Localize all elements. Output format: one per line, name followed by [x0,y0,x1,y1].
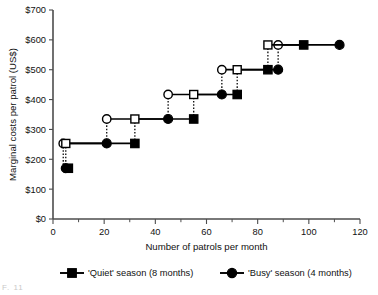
y-tick-label: $100 [25,185,46,195]
x-tick-label: 40 [150,227,160,237]
step-start-marker [62,139,70,147]
y-tick-label: $500 [25,65,46,75]
y-axis: $0$100$200$300$400$500$600$700 [25,5,53,224]
step-start-marker [218,66,226,74]
legend-marker-square [68,269,77,278]
legend-item-quiet[interactable]: 'Quiet' season (8 months) [60,268,193,278]
y-tick-label: $300 [25,125,46,135]
y-axis-title: Marginal costs per patrol (US$) [7,48,18,181]
step-start-marker [190,90,198,98]
x-axis-title: Number of patrols per month [145,241,267,252]
x-tick-label: 20 [99,227,109,237]
x-tick-label: 60 [201,227,211,237]
y-tick-label: $0 [36,214,46,224]
step-start-marker [233,66,241,74]
chart-legend: 'Quiet' season (8 months)'Busy' season (… [60,268,352,278]
y-tick-label: $200 [25,155,46,165]
plot-area [59,40,344,172]
x-tick-label: 100 [301,227,317,237]
y-tick-label: $700 [25,5,46,15]
step-start-marker [131,115,139,123]
x-tick-label: 80 [252,227,262,237]
step-end-marker [233,90,241,98]
legend-marker-circle [227,268,236,277]
step-end-marker [190,115,198,123]
step-end-marker [64,164,72,172]
step-start-marker [103,115,111,123]
y-tick-label: $600 [25,35,46,45]
marginal-costs-step-chart: $0$100$200$300$400$500$600$700 020406080… [0,0,378,295]
step-end-marker [264,66,272,74]
figure-marginal-costs-chart: $0$100$200$300$400$500$600$700 020406080… [0,0,378,295]
legend-label: 'Busy' season (4 months) [248,268,352,278]
step-end-marker [131,139,139,147]
step-start-marker [164,90,172,98]
step-start-marker [264,41,272,49]
legend-item-busy[interactable]: 'Busy' season (4 months) [220,268,352,278]
x-tick-label: 0 [50,227,55,237]
x-axis: 020406080100120 [50,219,367,237]
series-quiet-season [62,41,308,173]
axis-titles: Number of patrols per monthMarginal cost… [7,48,268,252]
figure-caption-fragment: F. 11 [2,283,24,292]
y-tick-label: $400 [25,95,46,105]
legend-label: 'Quiet' season (8 months) [88,268,193,278]
step-end-marker [300,41,308,49]
step-end-marker [274,65,283,74]
step-end-marker [335,40,344,49]
series-busy-season [59,40,344,172]
x-tick-label: 120 [352,227,368,237]
